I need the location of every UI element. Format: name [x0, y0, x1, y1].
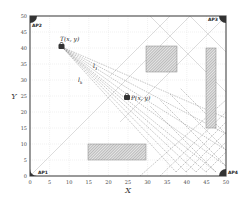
svg-text:0: 0	[24, 173, 27, 179]
y-axis-label: Y	[11, 92, 17, 101]
localization-diagram: AP1 AP2 AP3 AP4 T(x, y) P(x, y) l1 lk 0 …	[0, 0, 248, 198]
ap2-label: AP2	[32, 23, 42, 28]
ap4-marker	[219, 169, 226, 176]
svg-text:35: 35	[21, 61, 27, 67]
svg-text:30: 30	[144, 179, 150, 185]
probe-label: P(x, y)	[130, 94, 151, 102]
svg-text:0: 0	[28, 179, 31, 185]
x-axis-label: X	[124, 186, 131, 195]
svg-text:30: 30	[21, 77, 27, 83]
svg-text:5: 5	[48, 179, 51, 185]
svg-text:20: 20	[21, 109, 27, 115]
ap4-label: AP4	[228, 170, 238, 175]
obstacle-upper-middle	[146, 46, 177, 72]
svg-text:15: 15	[21, 125, 27, 131]
ray-label-first: l1	[93, 62, 97, 71]
svg-text:45: 45	[21, 29, 27, 35]
svg-text:10: 10	[21, 141, 27, 147]
svg-text:45: 45	[203, 179, 209, 185]
svg-text:35: 35	[164, 179, 170, 185]
ap1-label: AP1	[38, 170, 48, 175]
svg-text:40: 40	[184, 179, 190, 185]
x-tick-labels: 0 5 10 15 20 25 30 35 40 45 50	[28, 179, 229, 185]
svg-text:50: 50	[21, 13, 27, 19]
svg-text:10: 10	[66, 179, 72, 185]
svg-text:25: 25	[125, 179, 131, 185]
obstacle-right-vertical	[206, 48, 216, 128]
ap2-marker	[30, 16, 37, 23]
svg-text:20: 20	[105, 179, 111, 185]
svg-text:25: 25	[21, 93, 27, 99]
y-tick-labels: 0 5 10 15 20 25 30 35 40 45 50	[21, 13, 27, 179]
ap3-label: AP3	[208, 17, 218, 22]
obstacle-bottom	[88, 144, 146, 160]
target-label: T(x, y)	[60, 35, 80, 43]
target-marker	[59, 43, 65, 50]
probe-marker	[124, 94, 130, 101]
svg-text:50: 50	[223, 179, 229, 185]
ray-label-last: lk	[78, 76, 83, 85]
svg-text:15: 15	[86, 179, 92, 185]
svg-text:40: 40	[21, 45, 27, 51]
svg-text:5: 5	[24, 157, 27, 163]
